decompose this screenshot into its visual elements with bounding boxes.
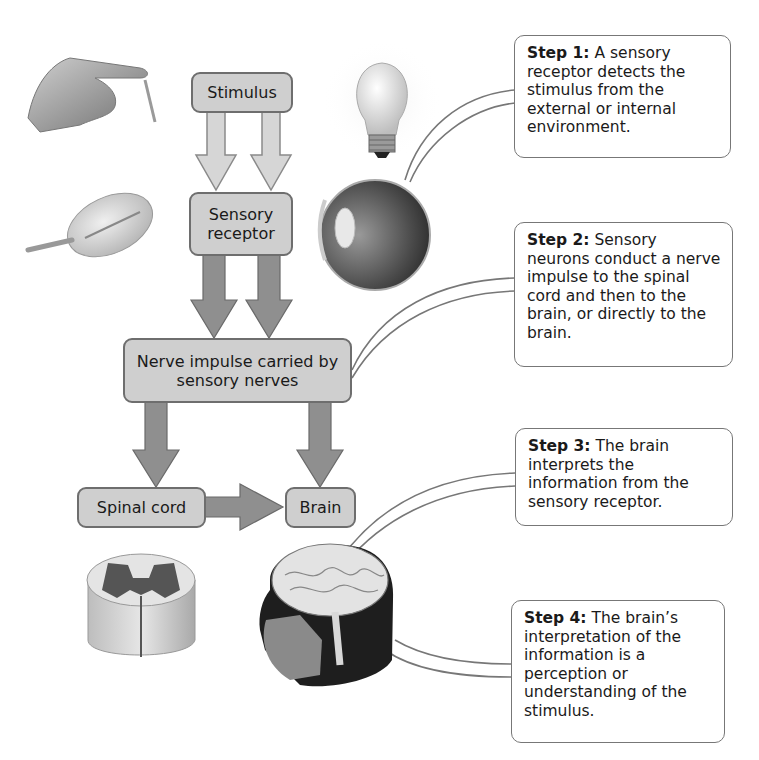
head-with-brain-icon bbox=[259, 544, 393, 686]
step-4-label: Step 4: bbox=[524, 609, 587, 627]
nerve-impulse-box: Nerve impulse carried by sensory nerves bbox=[123, 338, 352, 403]
arrow-down-icon bbox=[251, 112, 291, 190]
brain-box: Brain bbox=[285, 487, 356, 528]
arrow-down-icon bbox=[246, 255, 292, 338]
arrow-down-icon bbox=[133, 402, 179, 487]
pressure-receptor-icon bbox=[28, 181, 163, 270]
hand-touching-icon bbox=[28, 58, 155, 132]
stimulus-box: Stimulus bbox=[191, 72, 293, 113]
step-2-label: Step 2: bbox=[527, 231, 590, 249]
step-2-callout: Step 2: Sensory neurons conduct a nerve … bbox=[514, 222, 733, 367]
sensory-receptor-box: Sensory receptor bbox=[189, 192, 293, 256]
spinal-cord-box: Spinal cord bbox=[77, 487, 206, 528]
step-1-callout: Step 1: A sensory receptor detects the s… bbox=[514, 35, 731, 158]
sensory-pathway-diagram: Stimulus Sensory receptor Nerve impulse … bbox=[0, 0, 759, 760]
stimulus-label: Stimulus bbox=[207, 83, 277, 102]
eye-icon bbox=[320, 180, 430, 290]
arrow-down-icon bbox=[191, 255, 237, 338]
step-4-callout: Step 4: The brain’s interpretation of th… bbox=[511, 600, 725, 743]
light-arrows bbox=[196, 112, 291, 190]
spinal-cord-label: Spinal cord bbox=[97, 498, 186, 517]
step-1-label: Step 1: bbox=[527, 44, 590, 62]
arrow-right-icon bbox=[205, 484, 283, 530]
nerve-impulse-label: Nerve impulse carried by sensory nerves bbox=[135, 352, 340, 390]
spinal-cord-section-icon bbox=[87, 554, 195, 657]
arrow-down-icon bbox=[297, 402, 343, 487]
sensory-receptor-label: Sensory receptor bbox=[199, 205, 283, 243]
brain-label: Brain bbox=[300, 498, 342, 517]
step-3-callout: Step 3: The brain interprets the informa… bbox=[515, 428, 733, 526]
arrow-down-icon bbox=[196, 112, 236, 190]
step-3-label: Step 3: bbox=[528, 437, 591, 455]
light-bulb-icon bbox=[322, 40, 442, 160]
